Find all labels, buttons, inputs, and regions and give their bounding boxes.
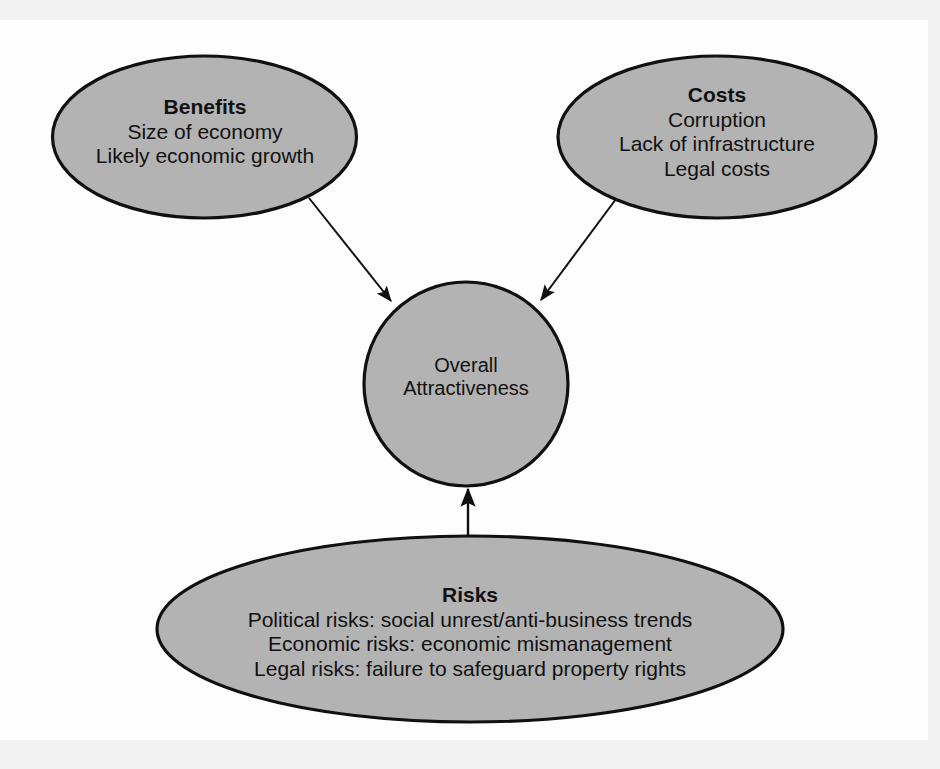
node-line-costs-2: Legal costs	[558, 157, 876, 182]
node-line-benefits-0: Size of economy	[52, 120, 358, 145]
node-line-costs-0: Corruption	[558, 108, 876, 133]
node-line-risks-1: Economic risks: economic mismanagement	[157, 632, 783, 657]
connector-costs-to-center	[541, 199, 616, 300]
node-line-center-1: Attractiveness	[363, 377, 569, 400]
node-line-center-0: Overall	[363, 354, 569, 377]
node-label-risks: Risks Political risks: social unrest/ant…	[157, 583, 783, 681]
node-label-benefits: Benefits Size of economy Likely economic…	[52, 95, 358, 169]
node-label-overall-attractiveness: Overall Attractiveness	[363, 354, 569, 401]
node-label-costs: Costs Corruption Lack of infrastructure …	[558, 83, 876, 181]
connector-benefits-to-center	[309, 198, 391, 301]
node-line-risks-2: Legal risks: failure to safeguard proper…	[157, 657, 783, 682]
node-line-benefits-1: Likely economic growth	[52, 144, 358, 169]
node-title-costs: Costs	[558, 83, 876, 108]
node-line-risks-0: Political risks: social unrest/anti-busi…	[157, 608, 783, 633]
node-title-risks: Risks	[157, 583, 783, 608]
diagram-figure: Benefits Size of economy Likely economic…	[0, 0, 940, 769]
node-title-benefits: Benefits	[52, 95, 358, 120]
node-line-costs-1: Lack of infrastructure	[558, 132, 876, 157]
